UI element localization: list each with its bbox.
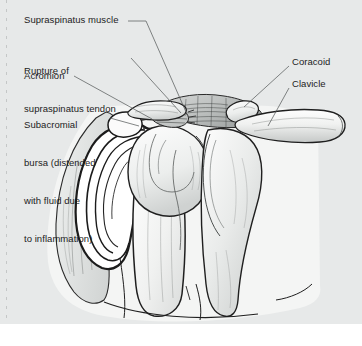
label-supraspinatus-muscle: Supraspinatus muscle [24,14,118,27]
label-line: with fluid due [24,195,96,208]
illustration-canvas: Supraspinatus muscle Rupture of supraspi… [0,0,362,346]
bottom-white-margin [0,324,362,346]
label-line: Subacromial [24,119,96,132]
label-line: bursa (distended [24,157,96,170]
label-line: to inflammation) [24,233,96,246]
label-subacromial-bursa: Subacromial bursa (distended with fluid … [24,94,96,270]
label-clavicle: Clavicle [292,78,326,91]
label-coracoid: Coracoid [292,56,330,69]
label-acromion: Acromion [24,70,65,83]
